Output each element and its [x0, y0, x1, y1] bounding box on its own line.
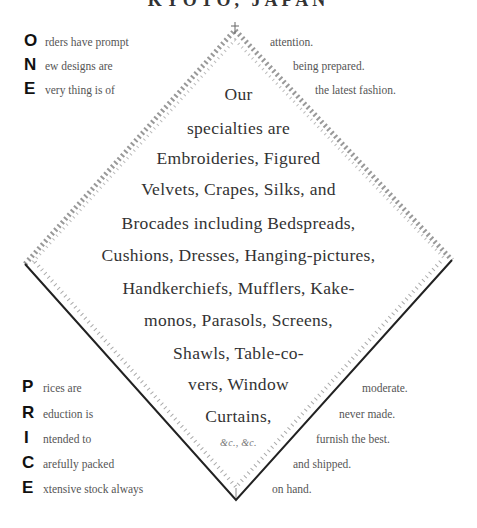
acrostic-initial: P	[22, 378, 33, 396]
acrostic-left-text: ntended to	[43, 432, 91, 446]
diamond-line: Cushions, Dresses, Hanging-pictures,	[0, 245, 477, 266]
acrostic-right-text: and shipped.	[293, 457, 351, 471]
acrostic-left-text: xtensive stock always	[43, 482, 143, 496]
diamond-line: monos, Parasols, Screens,	[0, 310, 477, 331]
diamond-line: Velvets, Crapes, Silks, and	[0, 179, 477, 200]
acrostic-right-text: on hand.	[272, 482, 312, 496]
acrostic-initial: O	[24, 32, 37, 50]
diamond-line: Brocades including Bedspreads,	[0, 213, 477, 234]
acrostic-left-text: ew designs are	[45, 59, 113, 73]
acrostic-left-text: rders have prompt	[45, 35, 129, 49]
acrostic-right-text: furnish the best.	[316, 432, 390, 446]
acrostic-left-text: eduction is	[43, 407, 93, 421]
diamond-line: Embroideries, Figured	[0, 148, 477, 169]
acrostic-left-text: arefully packed	[43, 457, 114, 471]
acrostic-initial: C	[22, 454, 34, 472]
acrostic-initial: I	[24, 429, 29, 447]
acrostic-initial: N	[24, 56, 36, 74]
acrostic-right-text: never made.	[339, 407, 395, 421]
acrostic-initial: E	[22, 479, 33, 497]
acrostic-initial: R	[22, 404, 34, 422]
acrostic-left-text: rices are	[43, 381, 82, 395]
acrostic-right-text: moderate.	[362, 381, 408, 395]
acrostic-right-text: attention.	[270, 35, 313, 49]
acrostic-right-text: being prepared.	[293, 59, 365, 73]
diamond-line: Shawls, Table-co-	[0, 343, 477, 364]
diamond-line: Handkerchiefs, Mufflers, Kake-	[0, 278, 477, 299]
diamond-line: specialties are	[0, 118, 477, 139]
diamond-line: Our	[0, 84, 477, 105]
